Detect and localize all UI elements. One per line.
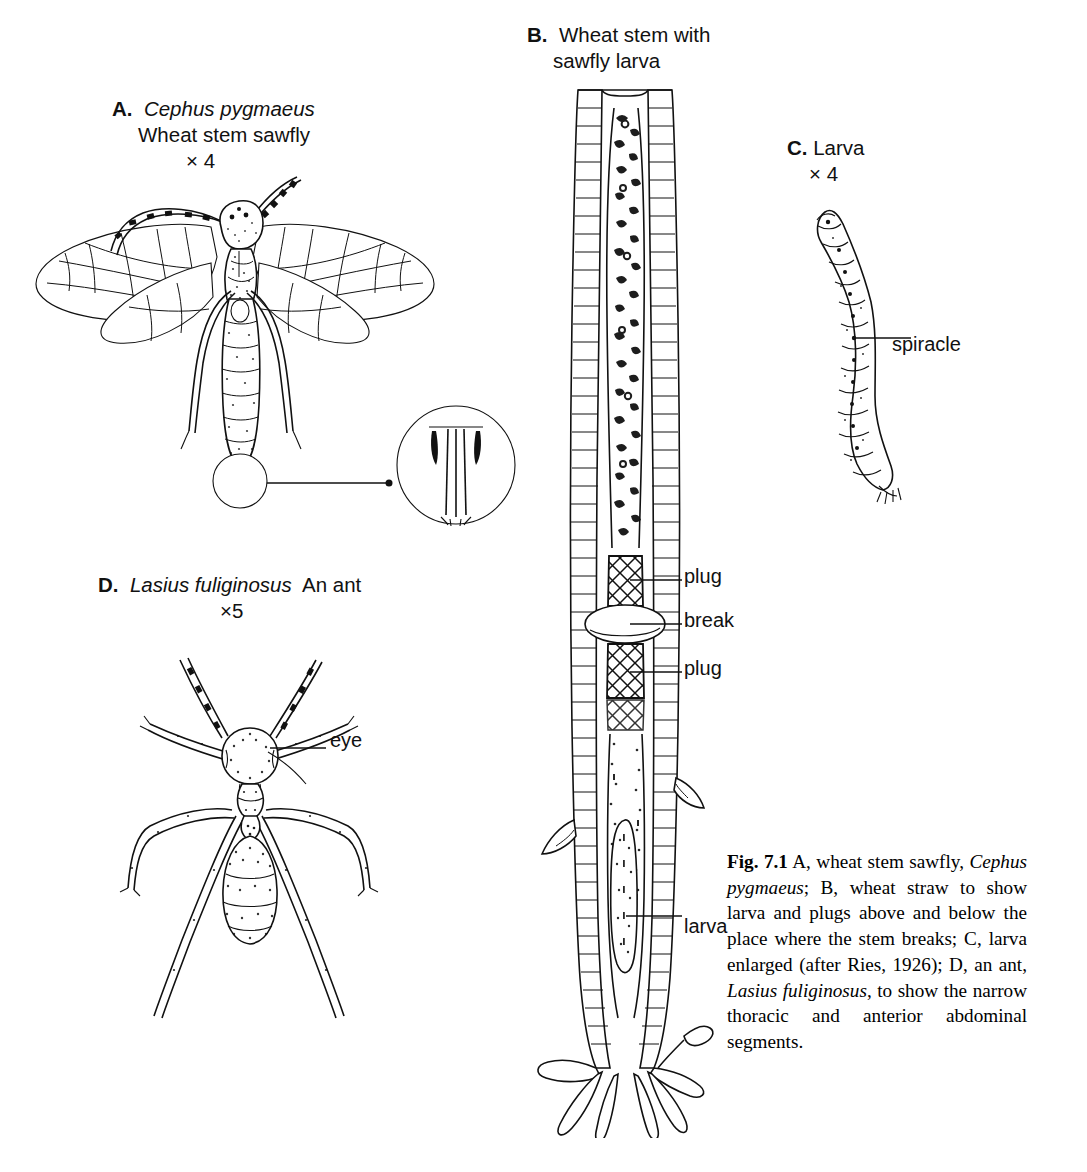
panel-c-label: C. Larva × 4 <box>787 135 864 187</box>
callout-plug-lower: plug <box>684 657 722 680</box>
panel-c-magnification: × 4 <box>809 162 838 185</box>
larva-body <box>817 211 901 505</box>
panel-d-common-name: An ant <box>302 573 361 596</box>
panel-a-common-name: Wheat stem sawfly <box>138 123 310 146</box>
panel-a-label: A. Cephus pygmaeus Wheat stem sawfly × 4 <box>112 96 315 175</box>
wheat-stem-illustration <box>530 78 720 1138</box>
panel-a-species: Cephus pygmaeus <box>144 97 315 120</box>
stem-frass-tunnel <box>607 108 644 548</box>
panel-a-letter: A. <box>112 97 133 120</box>
plug-lower <box>607 644 644 730</box>
ant-abdomen <box>223 836 277 944</box>
figure-caption: Fig. 7.1 A, wheat stem sawfly, Cephus py… <box>727 849 1027 1055</box>
callout-larva: larva <box>684 915 727 938</box>
panel-b-title-line2: sawfly larva <box>553 49 660 72</box>
panel-b-title-line1: Wheat stem with <box>559 23 711 46</box>
ant-thorax <box>238 784 264 838</box>
figure-plate: A. Cephus pygmaeus Wheat stem sawfly × 4 <box>0 0 1087 1172</box>
ovipositor-detail-callout <box>213 406 515 526</box>
callout-eye: eye <box>330 729 362 752</box>
plug-upper <box>608 556 643 606</box>
panel-b-label: B. Wheat stem with sawfly larva <box>527 22 710 74</box>
sawfly-illustration <box>25 165 525 545</box>
callout-break: break <box>684 609 734 632</box>
panel-c-name: Larva <box>813 136 864 159</box>
panel-b-letter: B. <box>527 23 548 46</box>
panel-d-label: D. Lasius fuliginosus An ant ×5 <box>98 572 361 624</box>
ant-illustration <box>110 620 410 1020</box>
stem-roots <box>538 1026 713 1138</box>
panel-c-letter: C. <box>787 136 808 159</box>
ant-antennae <box>180 658 322 738</box>
panel-d-magnification: ×5 <box>220 599 243 622</box>
panel-d-letter: D. <box>98 573 119 596</box>
sawfly-head <box>220 201 263 249</box>
larva-in-stem <box>611 820 637 973</box>
panel-d-species: Lasius fuliginosus <box>130 573 292 596</box>
callout-spiracle: spiracle <box>892 333 961 356</box>
callout-plug-upper: plug <box>684 565 722 588</box>
